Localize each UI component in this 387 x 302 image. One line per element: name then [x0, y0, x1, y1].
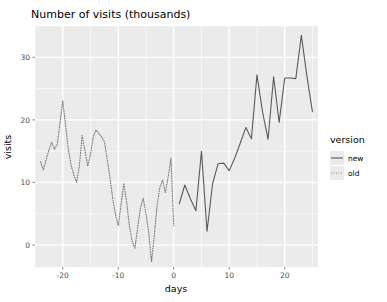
legend-title: version	[330, 134, 365, 145]
legend-label-new: new	[348, 154, 364, 163]
y-tick-label: 30	[20, 53, 30, 62]
y-axis-title: visits	[2, 135, 13, 160]
chart-container: Number of visits (thousands) -20-1001020…	[0, 0, 387, 302]
y-tick-label: 20	[20, 116, 30, 125]
chart-title: Number of visits (thousands)	[31, 8, 190, 21]
x-tick-label: -10	[112, 271, 124, 280]
plot-panel	[35, 26, 318, 267]
x-tick-label: 0	[171, 271, 176, 280]
y-tick-label: 10	[20, 178, 30, 187]
x-tick-label: 20	[280, 271, 290, 280]
visits-line-chart: Number of visits (thousands) -20-1001020…	[0, 0, 387, 302]
x-tick-label: 10	[224, 271, 234, 280]
legend-label-old: old	[348, 169, 360, 178]
x-tick-label: -20	[57, 271, 69, 280]
x-axis-title: days	[165, 283, 187, 294]
y-tick-label: 0	[25, 241, 30, 250]
